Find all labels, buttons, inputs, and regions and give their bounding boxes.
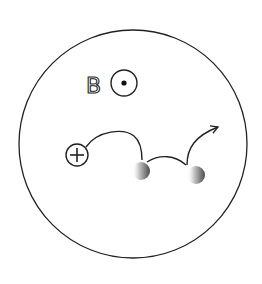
charge-trajectory-segment-2 — [147, 157, 186, 165]
positive-charge-icon — [66, 144, 88, 166]
field-out-of-page-icon — [111, 70, 137, 96]
scatterer-particle-2 — [187, 166, 205, 184]
field-region-circle — [19, 30, 247, 258]
magnetic-field-diagram: B — [0, 0, 262, 284]
field-label: B — [86, 73, 101, 98]
scatterer-particle-1 — [132, 162, 150, 180]
charge-trajectory — [86, 131, 142, 160]
charge-trajectory-exit — [187, 127, 218, 165]
